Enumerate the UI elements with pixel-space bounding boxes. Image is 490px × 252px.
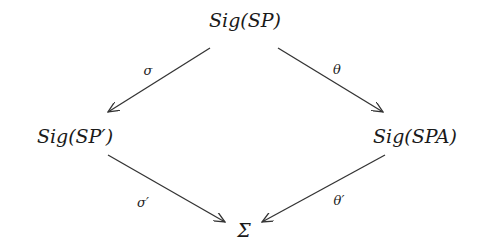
label-theta: θ [333,62,341,77]
arrow-sigma-prime [108,155,225,222]
node-sig-sp-prime: Sig(SP′) [37,125,113,147]
arrow-sigma [108,48,210,112]
label-theta-prime: θ′ [334,193,345,208]
node-sig-spa: Sig(SPA) [373,125,457,147]
label-sigma: σ [144,63,153,78]
node-sig-sp: Sig(SP) [209,9,281,31]
arrow-theta-prime [262,155,385,222]
commutative-diagram: Sig(SP) Sig(SP′) Sig(SPA) Σ σ θ σ′ θ′ [0,0,490,252]
arrow-theta [278,48,383,112]
node-sigma: Σ [237,219,250,241]
label-sigma-prime: σ′ [137,195,149,210]
